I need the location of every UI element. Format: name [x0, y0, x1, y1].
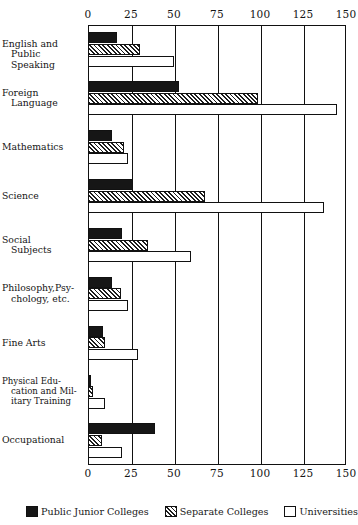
bar-5-1 — [88, 288, 121, 299]
bar-0-2 — [88, 56, 174, 67]
category-label-5: Philosophy,Psy-chology, etc. — [2, 283, 86, 304]
x-tick-label-150: 150 — [336, 8, 357, 20]
bar-3-1 — [88, 191, 205, 202]
bar-4-2 — [88, 251, 191, 262]
legend-swatch-0 — [26, 506, 38, 517]
legend-label-2: Universities — [299, 506, 358, 517]
x-tick-label-25: 25 — [124, 467, 138, 479]
category-label-8: Occupational — [2, 435, 86, 446]
bar-7-2 — [88, 398, 105, 409]
category-label-6: Fine Arts — [2, 338, 86, 349]
bar-8-0 — [88, 423, 155, 434]
bar-2-1 — [88, 142, 124, 153]
category-label-2: Mathematics — [2, 142, 86, 153]
bar-5-2 — [88, 300, 128, 311]
x-axis-bottom-tick-labels: 0255075100125150 — [0, 467, 355, 481]
bar-2-0 — [88, 130, 112, 141]
bar-2-2 — [88, 153, 128, 164]
legend-item-2: Universities — [284, 506, 358, 517]
x-tick-label-75: 75 — [210, 8, 224, 20]
legend-item-0: Public Junior Colleges — [26, 506, 149, 517]
bar-0-0 — [88, 32, 117, 43]
x-tick-label-75: 75 — [210, 467, 224, 479]
category-label-3: Science — [2, 191, 86, 202]
category-label-0: English andPublic Speaking — [2, 39, 86, 71]
category-label-4: SocialSubjects — [2, 235, 86, 256]
legend-swatch-1 — [165, 506, 177, 517]
bar-8-2 — [88, 447, 122, 458]
legend-label-0: Public Junior Colleges — [41, 506, 149, 517]
bar-1-0 — [88, 81, 179, 92]
bar-8-1 — [88, 435, 102, 446]
bar-1-1 — [88, 93, 258, 104]
bar-3-0 — [88, 179, 133, 190]
bar-7-1 — [88, 386, 93, 397]
x-tick-label-100: 100 — [250, 8, 271, 20]
legend-label-1: Separate Colleges — [180, 506, 269, 517]
bar-0-1 — [88, 44, 140, 55]
x-tick-label-100: 100 — [250, 467, 271, 479]
category-label-1: ForeignLanguage — [2, 88, 86, 109]
bars-layer — [88, 25, 346, 465]
x-tick-label-125: 125 — [293, 467, 314, 479]
x-tick-label-25: 25 — [124, 8, 138, 20]
x-tick-label-50: 50 — [167, 467, 181, 479]
category-label-7: Physical Edu-cation and Mil-itary Traini… — [2, 376, 86, 406]
chart-legend: Public Junior CollegesSeparate CollegesU… — [0, 500, 355, 522]
bar-4-0 — [88, 228, 122, 239]
bar-6-0 — [88, 326, 103, 337]
x-tick-label-150: 150 — [336, 467, 357, 479]
bar-3-2 — [88, 202, 324, 213]
x-axis-top-tick-labels: 0255075100125150 — [0, 8, 355, 22]
legend-item-1: Separate Colleges — [165, 506, 269, 517]
x-tick-label-125: 125 — [293, 8, 314, 20]
x-tick-label-0: 0 — [85, 8, 92, 20]
bar-1-2 — [88, 104, 337, 115]
bar-5-0 — [88, 277, 112, 288]
x-tick-label-50: 50 — [167, 8, 181, 20]
bar-6-1 — [88, 337, 105, 348]
x-tick-label-0: 0 — [85, 467, 92, 479]
y-axis-category-labels: English andPublic SpeakingForeignLanguag… — [0, 25, 88, 465]
bar-4-1 — [88, 240, 148, 251]
bar-6-2 — [88, 349, 138, 360]
bar-7-0 — [88, 375, 91, 386]
legend-swatch-2 — [284, 506, 296, 517]
